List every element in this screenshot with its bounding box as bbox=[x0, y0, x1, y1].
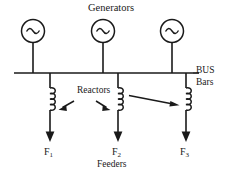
leader-line-long bbox=[129, 96, 173, 105]
bus-bars-label-line1: BUS bbox=[196, 66, 214, 76]
feeders-label: Feeders bbox=[97, 160, 127, 170]
generator-3 bbox=[161, 20, 184, 74]
feeder-1 bbox=[46, 73, 56, 142]
feeder-2 bbox=[114, 73, 124, 142]
generator-1 bbox=[22, 20, 45, 74]
feeder-3-label: F3 bbox=[180, 147, 189, 158]
reactor-2-coil-icon bbox=[118, 88, 123, 110]
generator-2 bbox=[92, 20, 115, 74]
feeder-1-label-index: 1 bbox=[50, 151, 54, 159]
feeder-2-arrowhead-icon bbox=[114, 132, 123, 143]
single-line-diagram: Generators Reactors BUS Bars F1 F2 F3 Fe… bbox=[0, 0, 226, 174]
reactor-1-coil-icon bbox=[50, 88, 55, 110]
feeder-3-label-index: 3 bbox=[186, 151, 190, 159]
leader-line-right bbox=[96, 101, 107, 108]
reactors-leader-arrow-right bbox=[96, 101, 111, 111]
feeder-2-label-index: 2 bbox=[118, 151, 122, 159]
generators-label: Generators bbox=[88, 2, 134, 13]
feeder-3-label-name: F bbox=[180, 146, 186, 157]
reactors-leader-arrow-long bbox=[129, 96, 180, 107]
leader-arrowhead-left-icon bbox=[59, 105, 67, 111]
reactor-3-coil-icon bbox=[186, 88, 191, 110]
feeder-3-arrowhead-icon bbox=[182, 132, 191, 143]
feeder-1-label-name: F bbox=[44, 146, 50, 157]
reactors-leader-arrow-left bbox=[59, 101, 75, 111]
leader-arrowhead-long-icon bbox=[169, 101, 179, 107]
feeder-1-label: F1 bbox=[44, 147, 53, 158]
feeder-2-label-name: F bbox=[112, 146, 118, 157]
feeder-1-arrowhead-icon bbox=[46, 132, 55, 143]
feeder-3 bbox=[182, 73, 192, 142]
feeder-2-label: F2 bbox=[112, 147, 121, 158]
leader-arrowhead-right-icon bbox=[102, 105, 110, 111]
reactors-label: Reactors bbox=[77, 86, 110, 96]
bus-bars-label-line2: Bars bbox=[196, 78, 213, 88]
